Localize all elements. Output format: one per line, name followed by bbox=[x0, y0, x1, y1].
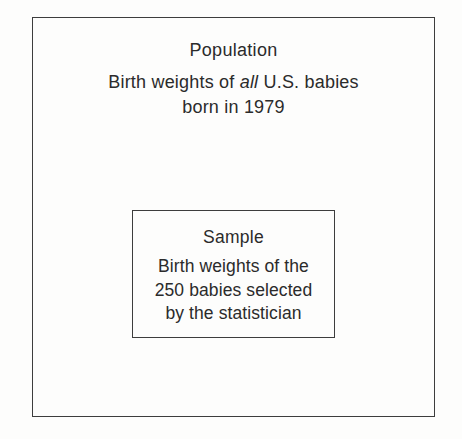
sample-description-line3: by the statistician bbox=[165, 303, 301, 323]
population-description: Birth weights of all U.S. babies born in… bbox=[33, 70, 434, 120]
sample-description: Birth weights of the 250 babies selected… bbox=[133, 255, 334, 326]
population-description-line1-post: U.S. babies bbox=[258, 72, 358, 92]
population-title: Population bbox=[33, 38, 434, 63]
population-box: Population Birth weights of all U.S. bab… bbox=[32, 17, 435, 417]
sample-title: Sample bbox=[133, 225, 334, 249]
population-description-italic-word: all bbox=[240, 72, 259, 92]
population-description-line2: born in 1979 bbox=[182, 97, 284, 117]
population-description-line1-pre: Birth weights of bbox=[108, 72, 239, 92]
sample-description-line1: Birth weights of the bbox=[158, 256, 309, 276]
sample-box: Sample Birth weights of the 250 babies s… bbox=[132, 210, 335, 338]
sample-description-line2: 250 babies selected bbox=[155, 280, 313, 300]
